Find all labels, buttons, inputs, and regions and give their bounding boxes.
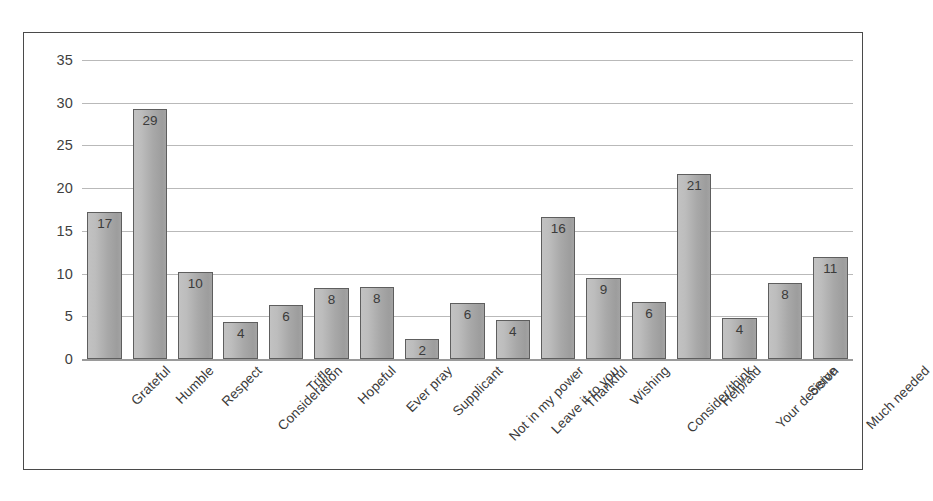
bar[interactable]: 8 [314,288,348,359]
x-axis-label: Supplicant [450,363,506,419]
bar-value-label: 6 [451,308,483,322]
x-axis-label: Serve [805,363,841,399]
bar[interactable]: 6 [450,303,484,359]
y-tick-label-30: 30 [56,95,73,111]
x-axis-label: Hopeful [354,363,398,407]
bar[interactable]: 16 [541,217,575,359]
bar-slot: 29 [127,60,172,359]
x-axis-label: Respect [219,363,265,409]
bar[interactable]: 4 [722,318,756,359]
y-tick-label-20: 20 [56,180,73,196]
bar-slot: 4 [490,60,535,359]
bar-slot: 11 [808,60,853,359]
bar[interactable]: 10 [178,272,212,359]
bar-value-label: 4 [723,323,755,337]
x-axis-label: Wishing [627,363,672,408]
bar-value-label: 8 [769,288,801,302]
plot-area: 05101520253035 17291046882641696214811 [82,60,853,359]
bar[interactable]: 29 [133,109,167,359]
bar[interactable]: 6 [632,302,666,359]
bar-slot: 8 [762,60,807,359]
chart-frame: 05101520253035 17291046882641696214811 G… [23,32,863,470]
bar-slot: 6 [445,60,490,359]
x-axis-label: Grateful [128,363,173,408]
x-axis-category-labels: GratefulHumbleRespectConsiderationTrifle… [82,363,853,468]
bar-slot: 8 [309,60,354,359]
bar-value-label: 29 [134,114,166,128]
bar-slot: 6 [626,60,671,359]
bar-slot: 4 [218,60,263,359]
bar[interactable]: 8 [768,283,802,359]
bar-value-label: 11 [814,262,846,276]
y-tick-label-25: 25 [56,137,73,153]
bar-value-label: 10 [179,277,211,291]
y-tick-label-35: 35 [56,52,73,68]
x-axis-label: Humble [173,363,217,407]
bar[interactable]: 2 [405,339,439,360]
bar-slot: 21 [672,60,717,359]
bar[interactable]: 4 [223,322,257,359]
bar-slot: 16 [536,60,581,359]
bar-slot: 9 [581,60,626,359]
bar-value-label: 4 [224,327,256,341]
bar-slot: 6 [263,60,308,359]
bar-value-label: 9 [587,283,619,297]
bar-slot: 4 [717,60,762,359]
y-tick-label-0: 0 [65,351,73,367]
bar-slot: 17 [82,60,127,359]
bar-value-label: 2 [406,344,438,358]
bar[interactable]: 6 [269,305,303,359]
bar-value-label: 6 [270,310,302,324]
bar-value-label: 17 [88,217,120,231]
bar[interactable]: 8 [360,287,394,359]
bar-value-label: 16 [542,222,574,236]
bar-value-label: 4 [497,325,529,339]
x-axis-label: Ever pray [403,363,455,415]
bar[interactable]: 9 [586,278,620,359]
y-tick-label-15: 15 [56,223,73,239]
gridline-0 [82,359,853,361]
bar-value-label: 8 [361,292,393,306]
bar-value-label: 6 [633,307,665,321]
bar[interactable]: 11 [813,257,847,359]
bar-value-label: 21 [678,179,710,193]
bar[interactable]: 21 [677,174,711,359]
y-tick-label-10: 10 [56,266,73,282]
bar-value-label: 8 [315,293,347,307]
bar-slot: 2 [399,60,444,359]
y-tick-label-5: 5 [65,308,73,324]
x-axis-label: Much needed [864,363,933,432]
bar[interactable]: 4 [496,320,530,359]
bar-slot: 8 [354,60,399,359]
bar-series: 17291046882641696214811 [82,60,853,359]
bar-slot: 10 [173,60,218,359]
bar[interactable]: 17 [87,212,121,359]
